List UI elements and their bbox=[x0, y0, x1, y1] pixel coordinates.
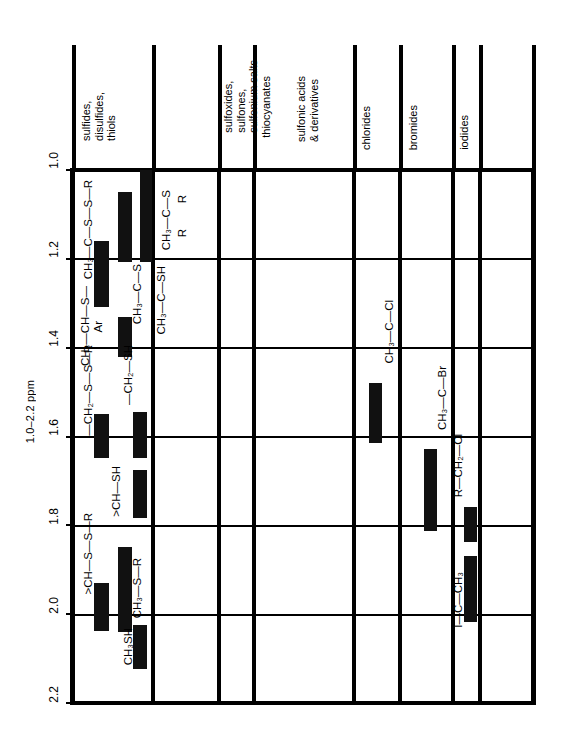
header-stub-6 bbox=[452, 45, 456, 171]
column-header-bromides: bromides bbox=[407, 105, 420, 150]
grid-hline-2-2 bbox=[70, 701, 536, 705]
column-header-sulfoxides: sulfoxides, sulfones, sulfonium salts bbox=[222, 60, 260, 133]
range-bar bbox=[133, 470, 147, 518]
bar-label: CH₃—C—Br bbox=[436, 366, 448, 430]
range-bar bbox=[140, 170, 152, 262]
column-header-sulfonic-acids: sulfonic acids & derivatives bbox=[295, 76, 320, 142]
header-stub-0 bbox=[72, 45, 76, 171]
header-stub-8 bbox=[532, 45, 536, 171]
bar-label: CH₃—C—S—S—R bbox=[82, 180, 94, 279]
bar-label: CH₃—C—S bbox=[131, 264, 143, 324]
bar-label-r: R bbox=[176, 195, 188, 203]
axis-title: 1.0–2.2 ppm bbox=[24, 380, 36, 443]
column-header-thiocyanates: thiocyanates bbox=[260, 76, 273, 138]
bar-label: CH₃—S—R bbox=[131, 558, 143, 618]
column-header-chlorides: chlorides bbox=[360, 106, 373, 150]
range-bar bbox=[133, 625, 147, 669]
column-header-iodides: iodides bbox=[458, 115, 471, 150]
header-stub-7 bbox=[479, 45, 483, 171]
tick-label-2-0: 2.0 bbox=[47, 597, 61, 614]
range-bar bbox=[369, 383, 382, 443]
bar-label: CH₃—C—Cl bbox=[383, 300, 395, 363]
range-bar bbox=[94, 583, 109, 631]
bar-label: I—C—CH₃ bbox=[452, 572, 464, 628]
bar-label: >CH—SH bbox=[110, 466, 122, 517]
bar-label-stacked-ar: Ar bbox=[92, 321, 105, 333]
bar-label: CH₃—C—SH bbox=[155, 266, 167, 335]
bar-label-line1: CH₃—C—S bbox=[160, 190, 172, 250]
bar-label-sulfoxide-r2: R bbox=[176, 229, 189, 237]
grid-hline-1-4 bbox=[70, 347, 536, 349]
range-bar bbox=[133, 412, 147, 458]
bar-label: CH₃SH bbox=[122, 628, 134, 665]
bar-label: —CH₂—SH bbox=[122, 345, 134, 405]
bar-label: R—CH₂—Cl bbox=[452, 434, 464, 497]
tick-label-1-0: 1.0 bbox=[47, 152, 61, 169]
header-stub-5 bbox=[399, 45, 403, 171]
header-stub-1 bbox=[152, 45, 156, 171]
header-stub-4 bbox=[353, 45, 357, 171]
bar-label-sulfoxide-r1: R bbox=[176, 195, 189, 203]
column-header-sulfides: sulfides, disulfides, thiols bbox=[80, 92, 118, 141]
range-bar bbox=[94, 414, 109, 458]
range-bar bbox=[464, 556, 477, 622]
range-bar bbox=[464, 507, 477, 542]
range-bar bbox=[94, 241, 109, 307]
range-bar bbox=[118, 547, 132, 632]
bar-label-line2: Ar bbox=[92, 321, 104, 333]
bar-label: >CH—S—S—R bbox=[82, 513, 94, 594]
tick-label-2-2: 2.2 bbox=[47, 686, 61, 703]
bar-label-stacked: CH₃—CH—S— bbox=[79, 286, 92, 366]
range-bar bbox=[424, 449, 437, 531]
tick-label-1-4: 1.4 bbox=[47, 330, 61, 347]
tick-label-1-2: 1.2 bbox=[47, 241, 61, 258]
tick-label-1-6: 1.6 bbox=[47, 419, 61, 436]
range-bar bbox=[118, 192, 132, 262]
tick-label-1-8: 1.8 bbox=[47, 508, 61, 525]
bar-label-stacked-sulfoxide: CH₃—C—S bbox=[160, 190, 173, 250]
nmr-shift-chart: 1.0–2.2 ppm 1.0 1.2 1.4 1.6 1.8 2.0 2.2 … bbox=[0, 0, 563, 742]
bar-label-line1: CH₃—CH—S— bbox=[79, 286, 91, 366]
bar-label-r: R bbox=[176, 229, 188, 237]
